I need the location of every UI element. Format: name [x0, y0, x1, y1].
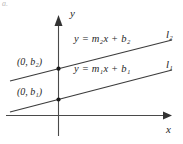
line-label-2: l₂: [166, 29, 173, 40]
line-label-1: l₁: [166, 59, 173, 70]
equation-line2: y = m₂x + b₂: [74, 34, 131, 45]
parallel-lines-figure: a. y x y = m₂x + b₂ y = m₁x + b₁ (0, b₂)…: [0, 0, 183, 144]
y-intercept-label-l1: (0, b₁): [17, 87, 42, 97]
y-axis: [55, 15, 63, 136]
x-axis-label: x: [166, 124, 171, 135]
intercept-dot-l2: [56, 67, 60, 71]
y-intercept-label-l2: (0, b₂): [17, 57, 42, 67]
equation-line1: y = m₁x + b₁: [74, 64, 131, 75]
x-axis: [6, 112, 172, 120]
y-axis-label: y: [70, 8, 75, 19]
intercept-dot-l1: [56, 97, 60, 101]
